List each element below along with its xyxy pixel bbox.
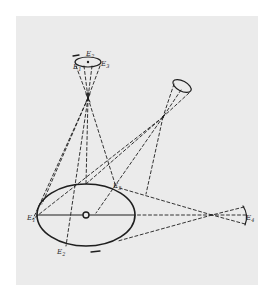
label-ellipse-top: E3 bbox=[112, 182, 121, 191]
sight-lines bbox=[33, 66, 246, 246]
center-ring-icon bbox=[83, 212, 89, 218]
label-top-mid: E2 bbox=[85, 50, 94, 59]
dash-mark-top bbox=[73, 55, 79, 56]
label-top-right: E3 bbox=[100, 60, 109, 69]
label-ellipse-bottom: E2 bbox=[56, 248, 65, 257]
label-right-cap: E4 bbox=[245, 214, 254, 223]
dash-mark-bottom bbox=[91, 251, 100, 252]
diagram-canvas: E1 E2 E3 E1 E3 E2 E4 bbox=[0, 0, 273, 298]
upper-right-aperture bbox=[171, 77, 193, 95]
top-aperture-center-icon bbox=[87, 61, 89, 63]
label-ellipse-left: E1 bbox=[26, 214, 35, 223]
crossing-dot-icon bbox=[162, 116, 164, 118]
labels: E1 E2 E3 E1 E3 E2 E4 bbox=[26, 50, 254, 257]
label-top-left: E1 bbox=[72, 63, 81, 72]
